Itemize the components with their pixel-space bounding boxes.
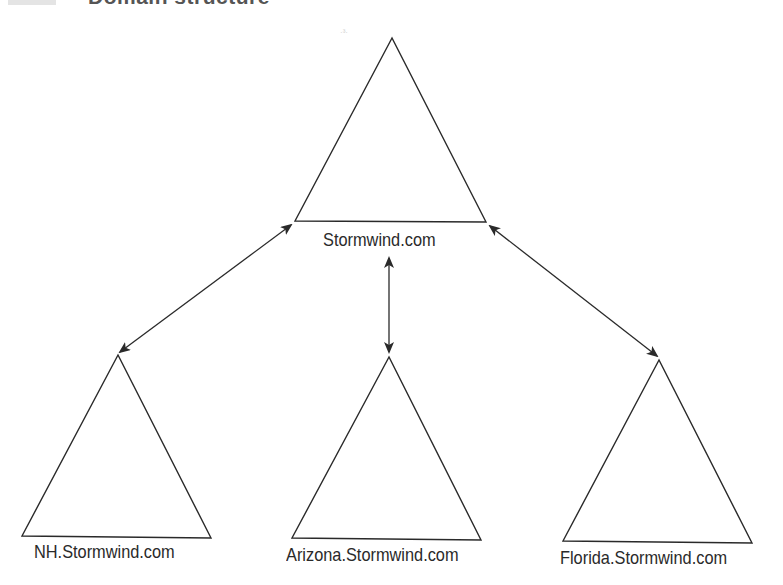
root-domain-triangle — [295, 38, 486, 222]
trust-arrow-nh — [120, 225, 291, 352]
nh-domain-triangle — [22, 355, 211, 538]
trust-arrow-florida — [490, 226, 657, 356]
arizona-domain-label: Arizona.Stormwind.com — [286, 544, 459, 566]
root-domain-label: Stormwind.com — [323, 229, 436, 251]
florida-domain-triangle — [563, 360, 752, 543]
domain-tree-diagram — [0, 0, 783, 585]
florida-domain-label: Florida.Stormwind.com — [560, 547, 727, 569]
arizona-domain-triangle — [292, 357, 481, 540]
nh-domain-label: NH.Stormwind.com — [34, 541, 175, 563]
